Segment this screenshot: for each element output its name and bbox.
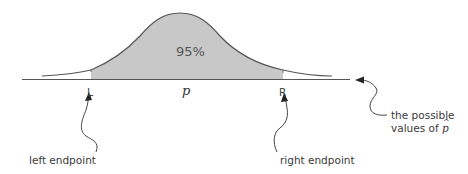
axis-values-prefix: values of — [391, 122, 442, 134]
left-endpoint-arrow — [81, 95, 97, 152]
p-hat-symbol: p — [442, 122, 449, 134]
right-marker-R: R — [279, 86, 286, 98]
right-endpoint-arrow — [274, 96, 287, 152]
axis-values-annotation-line2: values of p — [391, 122, 449, 134]
left-marker-L: L — [87, 86, 93, 98]
center-p-label: p — [182, 85, 190, 97]
arrowhead-axis — [355, 77, 364, 84]
axis-values-arrow — [360, 80, 387, 115]
left-endpoint-annotation: left endpoint — [29, 154, 96, 166]
percentage-label: 95% — [176, 46, 205, 58]
diagram-canvas — [0, 0, 468, 174]
right-endpoint-annotation: right endpoint — [280, 154, 355, 166]
